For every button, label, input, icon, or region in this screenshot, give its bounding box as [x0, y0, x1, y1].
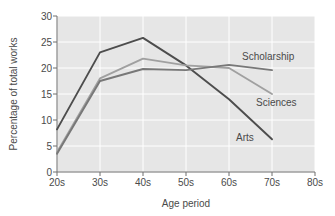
- y-tick-label-10: 10: [41, 115, 53, 126]
- y-axis-ticks: [53, 16, 57, 172]
- series-label-scholarship: Scholarship: [242, 51, 295, 62]
- x-tick-label-30s: 30s: [92, 177, 108, 188]
- x-tick-label-80s: 80s: [307, 177, 323, 188]
- x-tick-label-40s: 40s: [135, 177, 151, 188]
- x-tick-label-20s: 20s: [49, 177, 65, 188]
- y-axis-title: Percentage of total works: [8, 38, 19, 151]
- series-label-sciences: Sciences: [256, 97, 297, 108]
- x-tick-label-70s: 70s: [264, 177, 280, 188]
- series-label-arts: Arts: [236, 132, 254, 143]
- y-tick-label-0: 0: [46, 167, 52, 178]
- x-axis-title: Age period: [162, 198, 210, 209]
- y-tick-label-25: 25: [41, 37, 53, 48]
- chart-container: 30 25 20 15 10 5 0 20s 30s 40s 50s 60s 7…: [0, 0, 335, 216]
- y-tick-label-20: 20: [41, 63, 53, 74]
- x-tick-label-50s: 50s: [178, 177, 194, 188]
- x-axis-ticks: [57, 172, 315, 176]
- x-tick-label-60s: 60s: [221, 177, 237, 188]
- y-tick-label-15: 15: [41, 89, 53, 100]
- y-tick-label-30: 30: [41, 11, 53, 22]
- line-chart: 30 25 20 15 10 5 0 20s 30s 40s 50s 60s 7…: [0, 0, 335, 216]
- y-tick-label-5: 5: [46, 141, 52, 152]
